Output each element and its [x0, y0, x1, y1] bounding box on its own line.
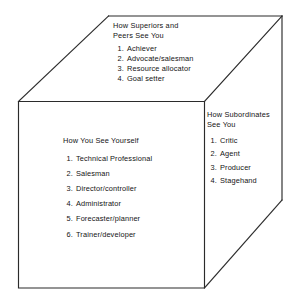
role-perception-cube-figure: How Superiors and Peers See You 1. Achie…: [0, 0, 293, 302]
face-how-subordinates-see-you: How Subordinates See You 1. Critic 2. Ag…: [207, 110, 270, 187]
face-superiors-heading-line1: How Superiors and: [113, 21, 194, 31]
list-item-number: 6.: [62, 227, 73, 242]
list-item: 3. Director/controller: [62, 181, 152, 196]
list-item: 5. Forecaster/planner: [62, 211, 152, 226]
list-item-label: Trainer/developer: [76, 227, 136, 242]
cube-top-left-edge: [19, 16, 109, 102]
face-self-role-list: 1. Technical Professional 2. Salesman 3.…: [62, 151, 152, 242]
list-item: 4. Administrator: [62, 196, 152, 211]
list-item-label: Advocate/salesman: [127, 54, 194, 64]
list-item-number: 4.: [62, 196, 73, 211]
cube-top-right-edge: [205, 16, 283, 102]
list-item: 6. Trainer/developer: [62, 227, 152, 242]
list-item-label: Critic: [220, 134, 238, 147]
list-item: 1. Achiever: [113, 44, 194, 54]
list-item-label: Stagehand: [220, 174, 257, 187]
list-item-label: Goal setter: [127, 74, 164, 84]
list-item-label: Agent: [220, 147, 240, 160]
list-item-label: Forecaster/planner: [76, 211, 140, 226]
cube-right-bottom-edge: [205, 200, 283, 288]
list-item-number: 5.: [62, 211, 73, 226]
face-self-heading-line1: How You See Yourself: [63, 136, 152, 146]
list-item-number: 2.: [207, 147, 217, 160]
list-item: 2. Salesman: [62, 166, 152, 181]
list-item-number: 1.: [113, 44, 124, 54]
list-item-label: Salesman: [76, 166, 110, 181]
list-item-label: Administrator: [76, 196, 121, 211]
list-item-label: Producer: [220, 161, 251, 174]
list-item-number: 4.: [207, 174, 217, 187]
list-item: 1. Critic: [207, 134, 270, 147]
list-item: 3. Producer: [207, 161, 270, 174]
face-superiors-heading: How Superiors and Peers See You: [113, 21, 194, 40]
list-item-number: 3.: [207, 161, 217, 174]
face-how-you-see-yourself: How You See Yourself 1. Technical Profes…: [62, 136, 152, 242]
list-item: 2. Advocate/salesman: [113, 54, 194, 64]
list-item-number: 2.: [113, 54, 124, 64]
face-superiors-heading-line2: Peers See You: [113, 31, 194, 41]
list-item-number: 4.: [113, 74, 124, 84]
list-item-label: Resource allocator: [127, 64, 191, 74]
list-item: 2. Agent: [207, 147, 270, 160]
list-item-number: 1.: [207, 134, 217, 147]
face-subordinates-heading-line1: How Subordinates: [207, 110, 270, 120]
list-item: 1. Technical Professional: [62, 151, 152, 166]
list-item-number: 3.: [62, 181, 73, 196]
list-item: 3. Resource allocator: [113, 64, 194, 74]
list-item-label: Achiever: [127, 44, 157, 54]
list-item-number: 1.: [62, 151, 73, 166]
list-item: 4. Stagehand: [207, 174, 270, 187]
face-subordinates-role-list: 1. Critic 2. Agent 3. Producer 4. Stageh…: [207, 134, 270, 187]
list-item-label: Technical Professional: [76, 151, 152, 166]
face-subordinates-heading: How Subordinates See You: [207, 110, 270, 129]
list-item-label: Director/controller: [76, 181, 137, 196]
face-superiors-role-list: 1. Achiever 2. Advocate/salesman 3. Reso…: [113, 44, 194, 84]
list-item-number: 3.: [113, 64, 124, 74]
list-item-number: 2.: [62, 166, 73, 181]
face-self-heading: How You See Yourself: [63, 136, 152, 146]
list-item: 4. Goal setter: [113, 74, 194, 84]
face-superiors-and-peers: How Superiors and Peers See You 1. Achie…: [113, 21, 194, 84]
face-subordinates-heading-line2: See You: [207, 120, 270, 130]
